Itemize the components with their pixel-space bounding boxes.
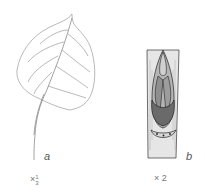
- scale-fraction: 13: [35, 174, 38, 186]
- leaf-vein: [56, 66, 88, 88]
- bundle-scar: [169, 133, 171, 135]
- panel-a-label: a: [44, 150, 50, 162]
- panel-b-label: b: [186, 150, 192, 162]
- panel-b-scale: × 2: [154, 173, 167, 183]
- botanical-figure: [0, 0, 205, 193]
- leaf-vein: [28, 56, 58, 82]
- panel-a-scale: ×13: [30, 174, 39, 186]
- leaf-illustration: [17, 14, 95, 160]
- leaf-vein: [48, 86, 86, 98]
- bud-illustration: [147, 50, 179, 158]
- leaf-vein: [62, 50, 90, 72]
- scale-denominator: 3: [35, 180, 38, 186]
- leaf-blade-outline: [17, 14, 95, 110]
- bundle-scar: [163, 135, 165, 137]
- bundle-scar: [156, 133, 158, 135]
